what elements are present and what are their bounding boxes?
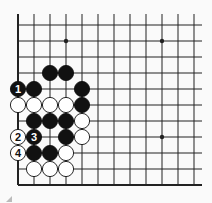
white-stone xyxy=(26,161,41,176)
go-board: 1234 xyxy=(0,0,212,203)
white-stone: 2 xyxy=(10,129,25,144)
white-stone: 4 xyxy=(10,145,25,160)
black-stone xyxy=(74,97,89,112)
white-stone xyxy=(74,113,89,128)
white-stone xyxy=(58,145,73,160)
black-stone xyxy=(58,113,73,128)
white-stone xyxy=(26,97,41,112)
black-stone xyxy=(26,145,41,160)
move-number-label: 2 xyxy=(15,131,21,143)
white-stone xyxy=(74,129,89,144)
black-stone xyxy=(42,113,57,128)
black-stone xyxy=(42,65,57,80)
black-stone: 1 xyxy=(10,81,25,96)
star-point-icon xyxy=(64,39,68,43)
move-number-label: 3 xyxy=(31,131,37,143)
move-number-label: 4 xyxy=(15,147,22,159)
white-stone xyxy=(42,97,57,112)
move-number-label: 1 xyxy=(15,83,21,95)
white-stone xyxy=(10,97,25,112)
star-point-icon xyxy=(160,39,164,43)
white-stone xyxy=(42,161,57,176)
resize-grip-icon xyxy=(6,196,12,202)
black-stone xyxy=(26,113,41,128)
star-point-icon xyxy=(160,135,164,139)
black-stone xyxy=(74,81,89,96)
black-stone xyxy=(26,81,41,96)
black-stone xyxy=(58,129,73,144)
black-stone xyxy=(42,145,57,160)
white-stone xyxy=(58,161,73,176)
black-stone xyxy=(58,65,73,80)
white-stone xyxy=(58,97,73,112)
black-stone: 3 xyxy=(26,129,41,144)
